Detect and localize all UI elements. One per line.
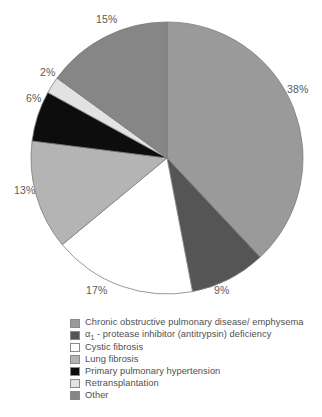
slice-label-6: 6% xyxy=(26,93,42,104)
legend-item-label: Other xyxy=(85,391,109,400)
legend-item-pulmonary-hypertension: Primary pulmonary hypertension xyxy=(70,365,320,377)
slice-label-15: 15% xyxy=(96,14,118,25)
legend-swatch-icon xyxy=(70,379,80,388)
legend-item-antitrypsin: α1 - protease inhibitor (antitrypsin) de… xyxy=(70,329,320,341)
legend-swatch-icon xyxy=(70,343,80,352)
slice-label-13: 13% xyxy=(14,185,36,196)
slice-label-2: 2% xyxy=(40,67,56,78)
pie-chart-page: 38% 9% 17% 13% 6% 2% 15% Chronic obstruc… xyxy=(0,0,322,417)
legend-item-label: Retransplantation xyxy=(85,379,159,388)
legend-item-label: Lung fibrosis xyxy=(85,355,138,364)
chart-legend: Chronic obstructive pulmonary disease/ e… xyxy=(70,317,320,402)
legend-item-label: Primary pulmonary hypertension xyxy=(85,367,220,376)
legend-item-retransplantation: Retransplantation xyxy=(70,377,320,389)
slice-label-38: 38% xyxy=(287,84,309,95)
legend-item-copd: Chronic obstructive pulmonary disease/ e… xyxy=(70,317,320,329)
legend-swatch-icon xyxy=(70,331,80,340)
slice-label-9: 9% xyxy=(214,285,230,296)
legend-item-label: α1 - protease inhibitor (antitrypsin) de… xyxy=(85,330,271,341)
alpha-1-symbol: α1 xyxy=(85,329,94,339)
legend-item-label: Cystic fibrosis xyxy=(85,343,143,352)
pie-chart-area: 38% 9% 17% 13% 6% 2% 15% xyxy=(0,0,322,310)
legend-swatch-icon xyxy=(70,355,80,364)
legend-item-other: Other xyxy=(70,390,320,402)
legend-swatch-icon xyxy=(70,319,80,328)
slice-label-17: 17% xyxy=(86,285,108,296)
pie-chart-svg xyxy=(0,0,322,310)
legend-swatch-icon xyxy=(70,391,80,400)
legend-item-cystic-fibrosis: Cystic fibrosis xyxy=(70,341,320,353)
legend-item-lung-fibrosis: Lung fibrosis xyxy=(70,353,320,365)
legend-swatch-icon xyxy=(70,367,80,376)
legend-item-label-text: - protease inhibitor (antitrypsin) defic… xyxy=(97,329,271,339)
legend-item-label: Chronic obstructive pulmonary disease/ e… xyxy=(85,318,303,327)
